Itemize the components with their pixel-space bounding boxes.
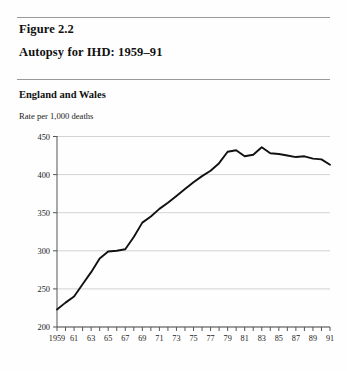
svg-text:91: 91 [326, 334, 334, 343]
svg-text:87: 87 [292, 334, 300, 343]
svg-text:85: 85 [275, 334, 283, 343]
svg-text:1959: 1959 [49, 334, 65, 343]
svg-text:400: 400 [37, 171, 50, 180]
svg-text:71: 71 [155, 334, 163, 343]
svg-text:350: 350 [37, 209, 50, 218]
svg-text:65: 65 [104, 334, 112, 343]
svg-text:450: 450 [37, 133, 50, 142]
y-axis-ticks [53, 137, 57, 328]
svg-text:69: 69 [138, 334, 146, 343]
x-axis-tick-labels: 195961636567697173757779818385878991 [49, 334, 334, 343]
chart-plot-area: 200250300350400450 195961636567697173757… [0, 0, 347, 371]
y-axis-tick-labels: 200250300350400450 [37, 133, 50, 333]
data-series-line [57, 147, 330, 309]
svg-text:63: 63 [87, 334, 95, 343]
svg-text:89: 89 [309, 334, 317, 343]
svg-text:250: 250 [37, 285, 50, 294]
svg-text:67: 67 [121, 334, 129, 343]
svg-text:83: 83 [258, 334, 266, 343]
svg-text:79: 79 [224, 334, 232, 343]
svg-text:300: 300 [37, 247, 50, 256]
svg-text:75: 75 [189, 334, 197, 343]
svg-text:77: 77 [206, 334, 214, 343]
x-axis-ticks [57, 327, 330, 331]
svg-text:81: 81 [241, 334, 249, 343]
line-chart-svg: 200250300350400450 195961636567697173757… [0, 0, 347, 371]
figure-card: Figure 2.2 Autopsy for IHD: 1959–91 Engl… [0, 0, 347, 371]
svg-text:200: 200 [37, 323, 50, 332]
gridlines [57, 137, 330, 328]
svg-text:61: 61 [70, 334, 78, 343]
svg-text:73: 73 [172, 334, 180, 343]
